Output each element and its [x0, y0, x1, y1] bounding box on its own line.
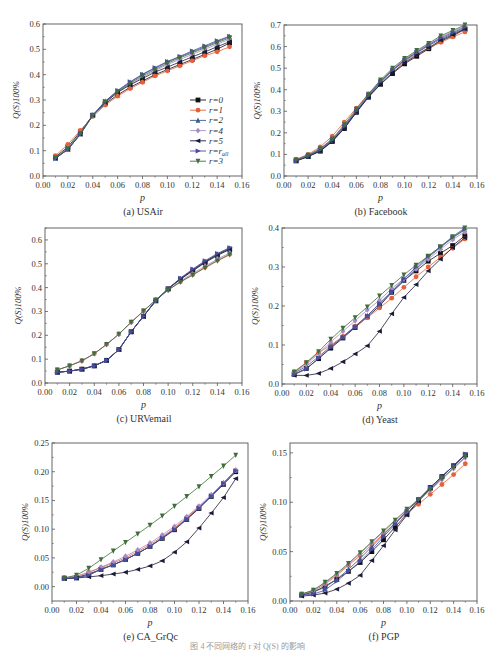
x-tick-label: 0.02 — [69, 605, 84, 615]
triangle-left-marker-icon — [98, 573, 103, 578]
x-tick-label: 0.00 — [283, 605, 298, 615]
triangle-down-marker-icon — [377, 293, 382, 298]
y-tick-label: 0.3 — [29, 95, 40, 105]
x-tick-label: 0.12 — [185, 387, 200, 397]
x-tick-label: 0.14 — [210, 387, 226, 397]
triangle-down-marker-icon — [184, 494, 189, 499]
series-r-5 — [293, 26, 467, 163]
y-tick-label: 0.00 — [34, 582, 49, 592]
x-tick-label: 0.10 — [399, 605, 414, 615]
circle-marker-icon — [202, 53, 207, 58]
x-tick-label: 0.00 — [36, 180, 51, 190]
triangle-left-marker-icon — [389, 311, 394, 316]
legend-item: r=5 — [190, 136, 224, 146]
x-tick-label: 0.00 — [45, 605, 60, 615]
circle-marker-icon — [414, 274, 419, 279]
x-tick-label: 0.14 — [446, 605, 462, 615]
y-tick-label: 0.1 — [268, 340, 279, 350]
y-tick-label: 0.0 — [268, 379, 279, 389]
plot-frame — [290, 443, 477, 601]
x-tick-label: 0.08 — [372, 388, 387, 398]
x-tick-label: 0.08 — [135, 180, 150, 190]
x-tick-label: 0.14 — [445, 180, 461, 190]
triangle-left-marker-icon — [303, 373, 308, 378]
y-tick-label: 0.7 — [270, 20, 281, 30]
y-tick-label: 0.1 — [29, 146, 40, 156]
chart-panel-c: 0.000.020.040.060.080.100.120.140.160.00… — [0, 213, 247, 428]
triangle-left-marker-icon — [208, 511, 213, 516]
triangle-left-marker-icon — [123, 570, 128, 575]
x-axis-label: p — [140, 399, 146, 410]
series-r-r-all — [299, 451, 468, 597]
x-tick-label: 0.16 — [470, 388, 485, 398]
triangle-down-marker-icon — [99, 557, 104, 562]
triangle-down-marker-icon — [209, 474, 214, 479]
circle-marker-icon — [389, 296, 394, 301]
line-chart-d: 0.000.020.040.060.080.100.120.140.160.00… — [247, 213, 494, 428]
y-tick-label: 0.0 — [270, 171, 281, 181]
x-axis-label: p — [139, 192, 145, 203]
series-r-0 — [299, 452, 467, 597]
legend-label: r=0 — [209, 95, 224, 105]
x-tick-label: 0.00 — [277, 180, 292, 190]
x-axis-label: p — [377, 192, 383, 203]
y-tick-label: 0.25 — [34, 438, 49, 448]
x-tick-label: 0.04 — [323, 388, 339, 398]
chart-panel-b: 0.000.020.040.060.080.100.120.140.160.00… — [247, 0, 494, 215]
x-tick-label: 0.00 — [275, 388, 290, 398]
x-tick-label: 0.00 — [38, 387, 53, 397]
x-tick-label: 0.02 — [299, 388, 314, 398]
circle-marker-icon — [401, 285, 406, 290]
y-tick-label: 0.10 — [272, 497, 287, 507]
legend-label: r=4 — [209, 126, 224, 136]
x-tick-label: 0.14 — [216, 605, 232, 615]
x-tick-label: 0.08 — [136, 387, 151, 397]
y-tick-label: 0.4 — [31, 283, 42, 293]
y-tick-label: 0.15 — [34, 495, 49, 505]
triangle-right-marker-icon — [196, 149, 201, 154]
y-axis-label: Q(S)100% — [11, 81, 21, 119]
y-tick-label: 0.10 — [34, 524, 49, 534]
x-tick-label: 0.02 — [62, 387, 77, 397]
legend-label: r=1 — [209, 105, 223, 115]
triangle-left-marker-icon — [196, 526, 201, 531]
line-chart-e: 0.000.020.040.060.080.100.120.140.160.00… — [0, 430, 247, 645]
circle-marker-icon — [165, 68, 170, 73]
circle-marker-icon — [440, 482, 445, 487]
triangle-left-marker-icon — [340, 359, 345, 364]
y-tick-label: 0.3 — [31, 306, 42, 316]
x-tick-label: 0.10 — [167, 605, 182, 615]
x-tick-label: 0.06 — [353, 605, 368, 615]
x-tick-label: 0.16 — [470, 180, 485, 190]
series-r-2 — [294, 25, 468, 163]
circle-marker-icon — [196, 108, 201, 113]
x-tick-label: 0.12 — [192, 605, 207, 615]
series-r-3 — [62, 453, 238, 581]
x-tick-label: 0.12 — [421, 388, 436, 398]
line-chart-a: 0.000.020.040.060.080.100.120.140.160.00… — [0, 0, 247, 215]
subfigure-caption: (d) Yeast — [257, 414, 495, 425]
circle-marker-icon — [227, 44, 232, 49]
chart-panel-a: 0.000.020.040.060.080.100.120.140.160.00… — [0, 0, 247, 215]
x-tick-label: 0.10 — [161, 387, 176, 397]
x-tick-label: 0.02 — [301, 180, 316, 190]
y-tick-label: 0.1 — [31, 354, 42, 364]
triangle-down-marker-icon — [86, 566, 91, 571]
legend-item: r=4 — [190, 126, 224, 136]
y-tick-label: 0.05 — [272, 547, 287, 557]
y-tick-label: 0.2 — [31, 330, 42, 340]
circle-marker-icon — [177, 63, 182, 68]
x-tick-label: 0.06 — [118, 605, 133, 615]
y-tick-label: 0.2 — [270, 128, 281, 138]
plot-frame — [45, 228, 242, 383]
circle-marker-icon — [215, 49, 220, 54]
triangle-left-marker-icon — [195, 138, 200, 143]
y-axis-label: Q(S)100% — [252, 82, 262, 120]
x-tick-label: 0.12 — [185, 180, 200, 190]
y-tick-label: 0.20 — [34, 467, 49, 477]
legend-item: r=2 — [190, 115, 224, 125]
triangle-left-marker-icon — [221, 495, 226, 500]
triangle-down-marker-icon — [233, 453, 238, 458]
y-tick-label: 0.2 — [268, 301, 279, 311]
triangle-left-marker-icon — [316, 371, 321, 376]
